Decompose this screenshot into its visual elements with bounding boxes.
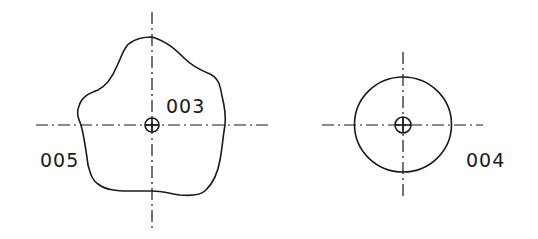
reference-label-004: 004 [466,149,505,171]
technical-drawing: 003 005 004 [0,0,538,239]
reference-label-005: 005 [40,149,79,171]
right-view: 004 [322,52,505,200]
left-view: 003 005 [36,12,272,228]
reference-label-003: 003 [166,95,205,117]
